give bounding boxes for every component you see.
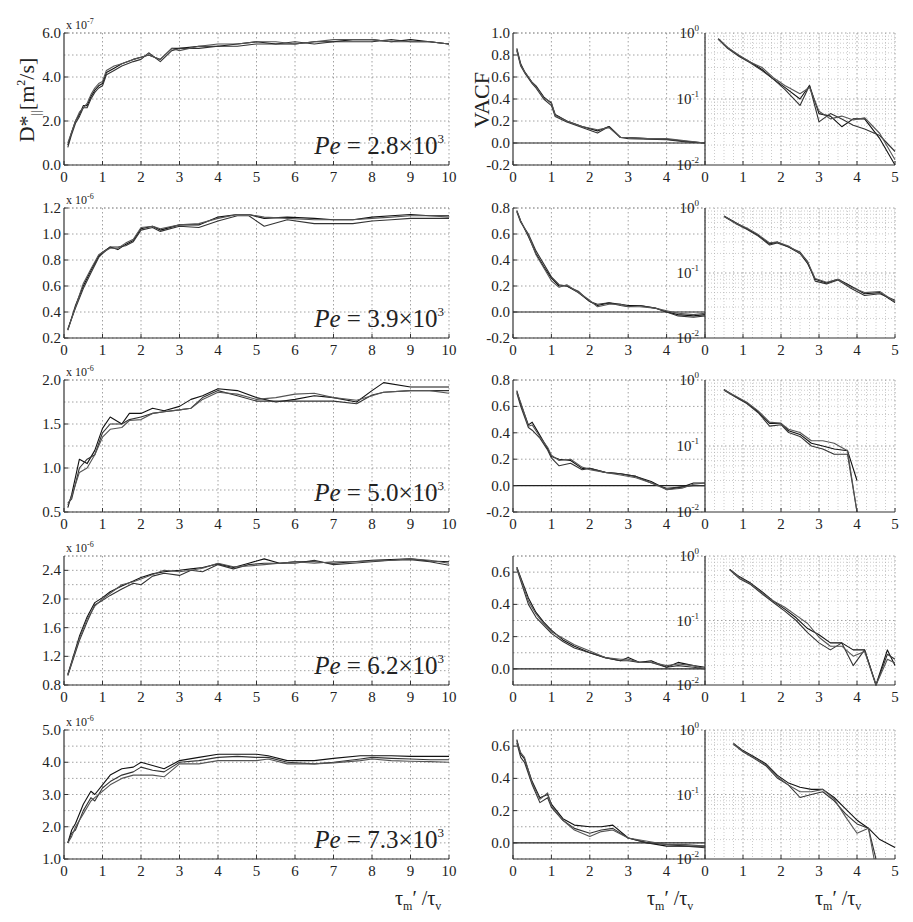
x-tick-label: 2 xyxy=(137,689,145,705)
x-tick-label: 3 xyxy=(624,689,632,705)
x-tick-label: 2 xyxy=(586,342,594,358)
x-tick-label: 7 xyxy=(330,516,338,532)
y-tick-label: 0.0 xyxy=(491,478,510,494)
x-tick-label: 3 xyxy=(176,516,184,532)
x-tick-label: 0 xyxy=(509,169,517,185)
panel-dstar-pe5.0: 0123456789100.51.01.52.0x 10-6Pe = 5.0×1… xyxy=(42,364,456,532)
panel-vacf-pe6.2: 012340.00.20.40.6 xyxy=(491,556,705,705)
y-tick-label: 10-1 xyxy=(677,785,700,803)
x-tick-label: 0 xyxy=(60,863,68,879)
x-tick-label: 4 xyxy=(663,863,671,879)
x-tick-label: 0 xyxy=(60,342,68,358)
x-tick-label: 4 xyxy=(214,689,222,705)
x-tick-label: 10 xyxy=(442,342,457,358)
data-series xyxy=(734,743,896,847)
x-tick-label: 0 xyxy=(509,863,517,879)
x-tick-label: 6 xyxy=(291,863,299,879)
svg-text:τm′ /τv: τm′ /τv xyxy=(647,887,693,913)
x-tick-label: 0 xyxy=(60,516,68,532)
y-tick-label: 2.0 xyxy=(42,372,61,388)
x-tick-label: 1 xyxy=(99,342,107,358)
y-multiplier: x 10-6 xyxy=(66,364,94,379)
y-tick-label: 0.4 xyxy=(491,91,510,107)
y-tick-label: 5.0 xyxy=(42,722,61,738)
x-tick-label: 0 xyxy=(701,342,709,358)
panel-dstar-pe6.2: 0123456789100.81.21.62.02.4x 10-6Pe = 6.… xyxy=(42,540,456,705)
y-tick-label: 0.0 xyxy=(491,835,510,851)
x-tick-label: 2 xyxy=(777,169,785,185)
x-tick-label: 1 xyxy=(739,516,747,532)
x-tick-label: 2 xyxy=(777,516,785,532)
x-tick-label: 1 xyxy=(739,169,747,185)
x-tick-label: 0 xyxy=(509,516,517,532)
x-tick-label: 8 xyxy=(368,689,376,705)
y-tick-label: 100 xyxy=(680,198,700,216)
pe-annotation: Pe = 3.9×103 xyxy=(313,304,444,332)
y-tick-label: 0.2 xyxy=(491,278,510,294)
x-tick-label: 8 xyxy=(368,516,376,532)
x-tick-label: 10 xyxy=(442,169,457,185)
y-tick-label: 0.6 xyxy=(491,226,510,242)
y-tick-label: 0.6 xyxy=(491,398,510,414)
x-tick-label: 2 xyxy=(777,342,785,358)
panel-dstar-pe7.3: 0123456789101.02.03.04.05.0x 10-6Pe = 7.… xyxy=(42,714,456,879)
x-tick-label: 2 xyxy=(137,516,145,532)
x-tick-label: 3 xyxy=(815,689,823,705)
y-tick-label: 10-2 xyxy=(677,502,700,520)
y-tick-label: 2.0 xyxy=(42,113,61,129)
x-tick-label: 3 xyxy=(176,689,184,705)
y-tick-label: 10-2 xyxy=(677,155,700,173)
data-series xyxy=(517,211,705,315)
x-tick-label: 2 xyxy=(137,863,145,879)
x-tick-label: 3 xyxy=(176,863,184,879)
figure: D*||[m2/s] VACF τm′ /τv τm′ /τv τm′ /τv … xyxy=(0,0,913,922)
svg-text:τm′ /τv: τm′ /τv xyxy=(815,887,861,913)
x-tick-label: 0 xyxy=(701,863,709,879)
x-tick-label: 7 xyxy=(330,689,338,705)
pe-annotation: Pe = 5.0×103 xyxy=(313,478,444,506)
x-tick-label: 1 xyxy=(99,689,107,705)
x-tick-label: 5 xyxy=(891,169,899,185)
x-tick-label: 3 xyxy=(624,516,632,532)
panel-vacf-pe2.8: 01234-0.20.00.20.40.60.81.0 xyxy=(486,25,705,185)
y-tick-label: 0.4 xyxy=(42,304,61,320)
x-tick-label: 10 xyxy=(442,516,457,532)
x-tick-label: 6 xyxy=(291,516,299,532)
x-tick-label: 3 xyxy=(176,342,184,358)
x-tick-label: 1 xyxy=(99,516,107,532)
x-tick-label: 4 xyxy=(663,516,671,532)
panel-vacflog-pe7.3: 01234510-210-1100 xyxy=(677,720,899,879)
x-tick-label: 4 xyxy=(663,689,671,705)
x-tick-label: 4 xyxy=(214,342,222,358)
y-tick-label: -0.2 xyxy=(486,504,510,520)
x-tick-label: 2 xyxy=(777,863,785,879)
x-tick-label: 1 xyxy=(99,169,107,185)
svg-text:VACF: VACF xyxy=(469,72,494,128)
x-tick-label: 9 xyxy=(407,516,415,532)
y-tick-label: 0.8 xyxy=(42,677,61,693)
data-series xyxy=(718,39,895,151)
x-tick-label: 0 xyxy=(60,169,68,185)
y-tick-label: 0.6 xyxy=(42,278,61,294)
x-tick-label: 0 xyxy=(701,516,709,532)
data-series xyxy=(724,390,857,512)
y-tick-label: 10-2 xyxy=(677,675,700,693)
y-tick-label: 0.8 xyxy=(491,47,510,63)
y-multiplier: x 10-6 xyxy=(66,540,94,555)
y-tick-label: 0.2 xyxy=(491,629,510,645)
x-tick-label: 2 xyxy=(777,689,785,705)
y-tick-label: 10-1 xyxy=(677,263,700,281)
y-tick-label: 2.4 xyxy=(42,562,61,578)
x-tick-label: 4 xyxy=(214,169,222,185)
y-tick-label: 0.6 xyxy=(491,69,510,85)
x-tick-label: 5 xyxy=(253,863,261,879)
x-tick-label: 6 xyxy=(291,342,299,358)
y-tick-label: 0.0 xyxy=(491,661,510,677)
pe-annotation: Pe = 6.2×103 xyxy=(313,651,444,679)
y-tick-label: 0.6 xyxy=(491,738,510,754)
figure-canvas: D*||[m2/s] VACF τm′ /τv τm′ /τv τm′ /τv … xyxy=(0,0,913,922)
panels: 0123456789100.02.04.06.0x 10-7Pe = 2.8×1… xyxy=(42,17,899,879)
y-tick-label: 10-1 xyxy=(677,611,700,629)
data-series xyxy=(718,39,895,160)
y-tick-label: 0.2 xyxy=(491,451,510,467)
